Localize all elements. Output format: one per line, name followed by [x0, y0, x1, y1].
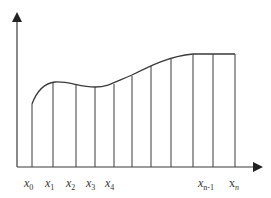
label-x2: x2 — [66, 176, 75, 192]
riemann-partition-diagram: x0 x1 x2 x3 x4 xn-1 xn — [0, 0, 271, 198]
x-axis-arrow-icon — [253, 162, 263, 172]
label-xn-1: xn-1 — [198, 176, 214, 192]
function-curve — [32, 54, 235, 104]
partition-lines — [32, 54, 235, 167]
diagram-canvas — [0, 0, 271, 198]
label-x3: x3 — [86, 176, 95, 192]
label-x4: x4 — [105, 176, 114, 192]
label-x0: x0 — [24, 176, 33, 192]
y-axis-arrow-icon — [12, 12, 22, 22]
label-xn: xn — [229, 176, 239, 192]
label-x1: x1 — [45, 176, 54, 192]
